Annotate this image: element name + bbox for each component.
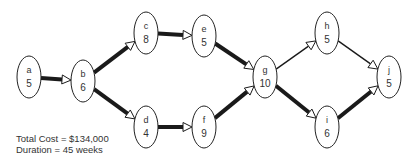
node-ellipse: [17, 56, 41, 98]
edge-line: [276, 86, 309, 113]
edge-line: [41, 78, 62, 80]
edge-line: [338, 91, 371, 118]
node-ellipse: [71, 60, 95, 102]
node-duration: 5: [386, 78, 392, 89]
total-cost-text: Total Cost = $134,000: [16, 133, 109, 144]
node-e: e5: [192, 15, 216, 57]
node-h: h5: [315, 12, 339, 54]
edge-g-i: [276, 86, 316, 118]
edge-c-e: [158, 30, 192, 39]
edge-f-g: [215, 86, 254, 118]
arrowhead-icon: [183, 30, 192, 39]
node-label: b: [80, 69, 85, 79]
node-duration: 6: [324, 128, 330, 139]
edge-d-f: [158, 123, 192, 132]
edge-line: [276, 46, 308, 69]
node-label: c: [144, 21, 149, 31]
node-duration: 5: [26, 78, 32, 89]
node-label: i: [326, 115, 328, 125]
node-b: b6: [71, 60, 95, 102]
node-a: a5: [17, 56, 41, 98]
edge-line: [94, 89, 128, 114]
edge-line: [215, 44, 246, 65]
node-c: c8: [134, 12, 158, 54]
node-ellipse: [192, 15, 216, 57]
node-duration: 9: [201, 128, 207, 139]
node-duration: 10: [259, 78, 271, 89]
node-label: g: [262, 65, 267, 75]
node-duration: 6: [80, 82, 86, 93]
node-label: d: [143, 115, 148, 125]
edge-e-g: [215, 44, 254, 70]
node-label: j: [387, 65, 390, 75]
summary-info: Total Cost = $134,000 Duration = 45 week…: [16, 133, 109, 155]
edge-line: [338, 41, 370, 64]
node-ellipse: [134, 12, 158, 54]
node-ellipse: [253, 56, 277, 98]
edge-b-c: [94, 41, 135, 72]
node-label: h: [324, 21, 329, 31]
edge-i-j: [338, 86, 378, 118]
edge-line: [215, 92, 247, 118]
node-ellipse: [134, 106, 158, 148]
node-duration: 5: [201, 37, 207, 48]
edge-line: [94, 47, 128, 73]
arrowhead-icon: [62, 75, 71, 84]
edge-a-b: [41, 75, 71, 84]
edge-h-j: [338, 41, 378, 69]
node-duration: 4: [143, 128, 149, 139]
node-f: f9: [192, 106, 216, 148]
node-duration: 5: [324, 34, 330, 45]
node-duration: 8: [143, 34, 149, 45]
edge-b-d: [94, 89, 135, 119]
duration-text: Duration = 45 weeks: [16, 144, 109, 155]
node-ellipse: [315, 106, 339, 148]
node-label: a: [26, 65, 31, 75]
node-ellipse: [192, 106, 216, 148]
edge-g-h: [276, 41, 316, 69]
edge-line: [158, 34, 183, 35]
node-j: j5: [377, 56, 401, 98]
node-label: e: [201, 24, 206, 34]
node-i: i6: [315, 106, 339, 148]
node-ellipse: [377, 56, 401, 98]
arrowhead-icon: [306, 41, 316, 50]
node-d: d4: [134, 106, 158, 148]
nodes-layer: a5b6c8d4e5f9g10h5i6j5: [17, 12, 401, 148]
arrowhead-icon: [183, 123, 192, 132]
arrowhead-icon: [368, 60, 378, 69]
node-g: g10: [253, 56, 277, 98]
node-ellipse: [315, 12, 339, 54]
